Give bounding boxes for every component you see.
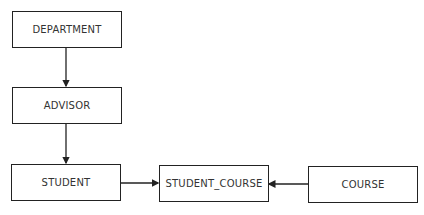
entity-label: STUDENT xyxy=(42,177,91,188)
entity-advisor: ADVISOR xyxy=(12,87,122,124)
entity-label: COURSE xyxy=(342,179,385,190)
entity-label: ADVISOR xyxy=(44,100,91,111)
entity-department: DEPARTMENT xyxy=(12,11,122,48)
entity-course: COURSE xyxy=(308,166,418,203)
entity-label: DEPARTMENT xyxy=(32,24,101,35)
entity-student: STUDENT xyxy=(11,164,121,201)
entity-label: STUDENT_COURSE xyxy=(166,178,263,189)
entity-student-course: STUDENT_COURSE xyxy=(159,165,269,202)
